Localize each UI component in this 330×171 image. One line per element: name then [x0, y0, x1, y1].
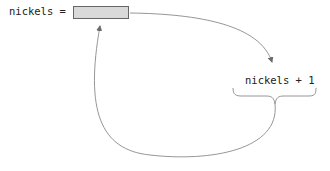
- assign-arrow: [94, 26, 275, 157]
- diagram-arrows: [0, 0, 330, 171]
- brace: [233, 88, 316, 104]
- read-arrow: [130, 13, 272, 62]
